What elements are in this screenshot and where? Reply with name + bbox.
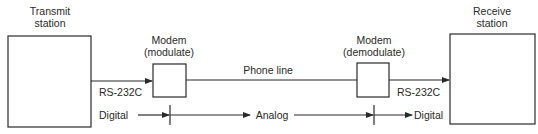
transmit-label-line2: station [20,17,80,29]
transmit-station-box [8,36,91,127]
modem-modulate-label: Modem (modulate) [137,34,201,58]
transmit-station-label: Transmit station [20,5,80,29]
modem-tx-label-line1: Modem [137,34,201,46]
digital-right-label: Digital [414,109,443,121]
modem-modulate-box [153,64,186,97]
receive-station-box [450,34,535,124]
modem-demodulate-box [357,63,389,97]
modem-demodulate-label: Modem (demodulate) [336,34,412,58]
modem-tx-label-line2: (modulate) [137,46,201,58]
transmit-label-line1: Transmit [20,5,80,17]
analog-label: Analog [252,109,292,121]
digital-left-label: Digital [99,109,128,121]
rs232c-left-label: RS-232C [99,86,142,98]
phone-line-label: Phone line [238,64,298,76]
receive-station-label: Receive station [462,5,522,29]
rs232c-right-label: RS-232C [397,86,440,98]
receive-label-line2: station [462,17,522,29]
modem-rx-label-line2: (demodulate) [336,46,412,58]
modem-rx-label-line1: Modem [336,34,412,46]
receive-label-line1: Receive [462,5,522,17]
